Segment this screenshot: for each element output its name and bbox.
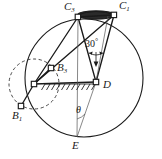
bar-C3-D: [78, 17, 96, 82]
joint-B3: [48, 65, 53, 70]
bar-A-C3: [34, 17, 78, 84]
joint-C3: [75, 14, 80, 19]
figure-canvas: [0, 0, 162, 159]
bar-C1-D: [96, 15, 114, 82]
line-E-D: [77, 82, 96, 137]
joint-D: [93, 79, 98, 84]
bar-A-B1: [21, 84, 34, 106]
apex-direction-arrow: [94, 52, 99, 67]
joint-B1: [18, 103, 23, 108]
joint-C1: [111, 12, 116, 17]
geometry-figure: C3 C1 B3 B1 D E 30° θ: [0, 0, 162, 159]
ground-hatching: [42, 84, 97, 90]
joint-A: [31, 81, 36, 86]
